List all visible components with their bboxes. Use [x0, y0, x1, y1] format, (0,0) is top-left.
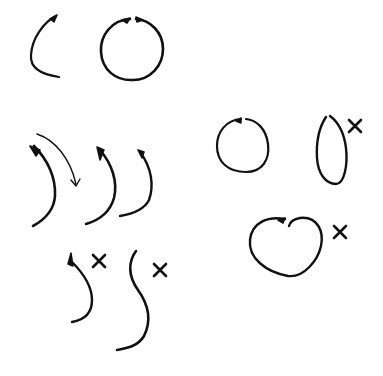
brush-stroke: [30, 146, 40, 156]
stroke-diagram: [0, 0, 383, 376]
row3-wrong-b: [117, 251, 166, 350]
direction-arrow: [37, 134, 76, 184]
brush-stroke: [97, 147, 104, 160]
right-circle-correct: [217, 118, 268, 172]
brush-stroke: [217, 119, 268, 172]
row1-full-circle: [101, 17, 163, 80]
right-oval-wrong: [317, 116, 361, 184]
brush-stroke: [250, 218, 322, 276]
brush-stroke: [72, 262, 92, 322]
row2-stroke-a: [30, 134, 80, 226]
row2-stroke-b: [86, 147, 115, 224]
row1-left-stroke: [31, 15, 59, 77]
row3-wrong-a: [68, 253, 105, 322]
brush-stroke: [33, 146, 55, 226]
brush-stroke: [117, 251, 148, 350]
x-icon: [349, 120, 361, 132]
brush-stroke: [317, 116, 347, 184]
right-heart-wrong: [250, 218, 346, 276]
x-icon: [154, 264, 166, 276]
brush-stroke: [68, 253, 73, 266]
brush-stroke: [101, 19, 163, 80]
diagram-canvas: [0, 0, 383, 376]
x-icon: [93, 255, 105, 267]
brush-stroke: [86, 150, 115, 224]
brush-stroke: [120, 152, 152, 216]
x-icon: [334, 226, 346, 238]
brush-stroke: [50, 15, 57, 22]
brush-stroke: [31, 16, 59, 77]
brush-stroke: [138, 150, 144, 158]
row2-stroke-c: [120, 150, 152, 216]
